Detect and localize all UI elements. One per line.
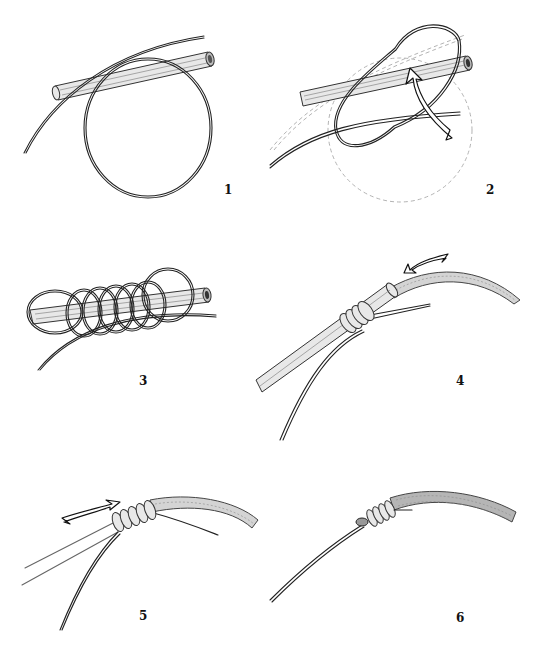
step-2-illustration <box>270 0 538 220</box>
step-5-panel: 5 <box>0 440 270 660</box>
step-2-number: 2 <box>486 184 494 196</box>
step-6-illustration <box>270 440 538 660</box>
step-3-number: 3 <box>139 375 147 387</box>
step-4-number: 4 <box>456 375 464 387</box>
step-4-illustration <box>270 220 538 440</box>
step-3-panel: 3 <box>0 220 270 440</box>
step-3-illustration <box>0 220 270 440</box>
step-1-panel: 1 <box>0 0 270 220</box>
step-5-illustration <box>0 440 270 660</box>
step-4-panel: 4 <box>270 220 538 440</box>
step-5-number: 5 <box>139 610 147 622</box>
step-6-number: 6 <box>456 612 464 624</box>
step-2-panel: 2 <box>270 0 538 220</box>
step-6-panel: 6 <box>270 440 538 660</box>
step-1-number: 1 <box>224 184 232 196</box>
